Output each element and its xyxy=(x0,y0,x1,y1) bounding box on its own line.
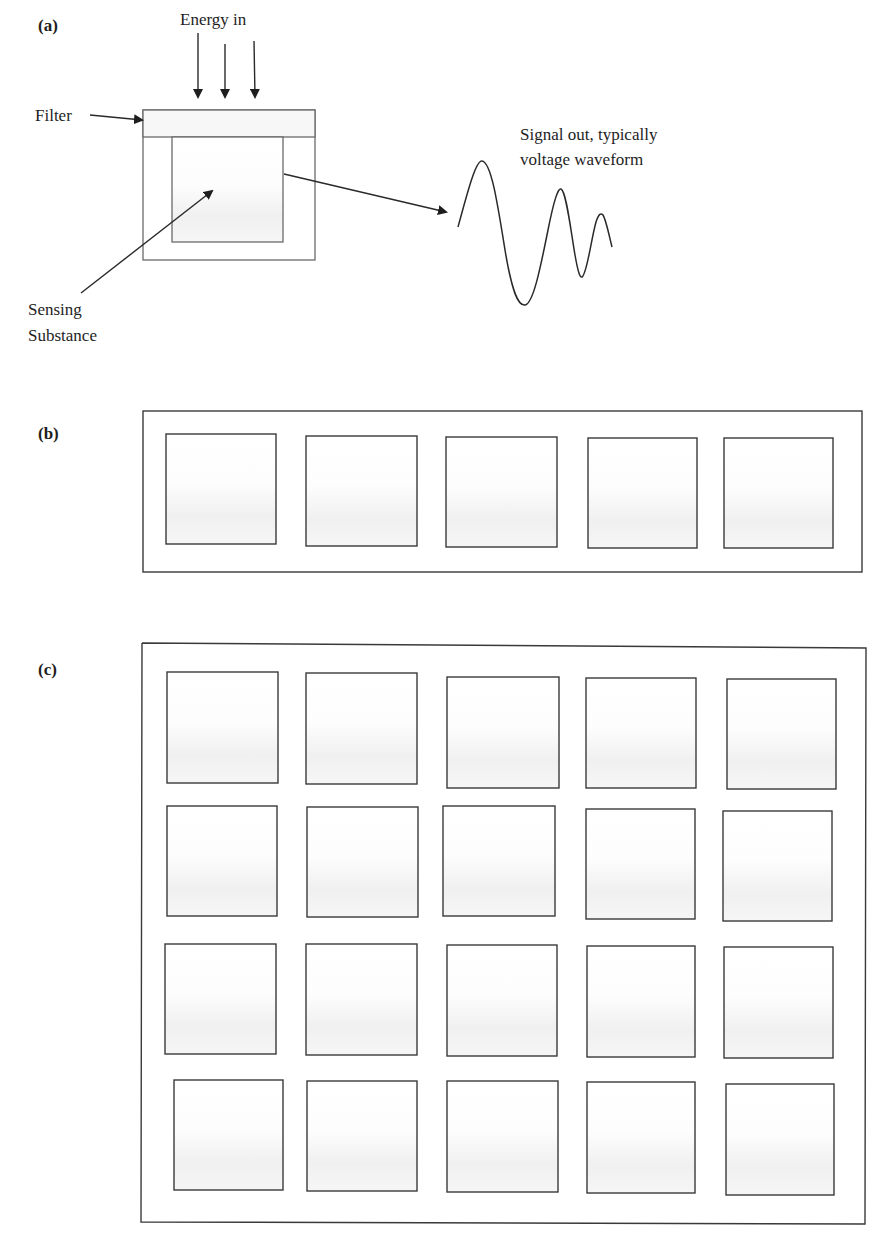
sensor-diagram xyxy=(81,33,612,305)
sensor-element xyxy=(447,677,559,788)
sensor-element xyxy=(306,673,417,784)
sensing-substance xyxy=(172,137,283,242)
sensor-element xyxy=(727,679,836,789)
sensor-element xyxy=(586,809,695,919)
sensor-element xyxy=(726,1084,834,1195)
sensor-element xyxy=(165,944,276,1054)
sensor-element xyxy=(446,437,557,547)
energy-arrows xyxy=(198,33,255,97)
sensor-element xyxy=(443,806,555,916)
sensor-element xyxy=(587,1082,695,1193)
energy-arrow-icon xyxy=(254,41,255,97)
sensor-element xyxy=(724,947,833,1058)
signal-out-arrow-icon xyxy=(284,174,446,212)
sensor-element xyxy=(723,811,832,921)
figure-canvas xyxy=(0,0,890,1259)
sensor-element xyxy=(307,1081,417,1191)
sensor-element xyxy=(167,806,277,916)
2d-sensor-array xyxy=(141,643,866,1224)
sensor-element xyxy=(724,438,833,548)
sensor-element xyxy=(166,434,276,544)
voltage-waveform xyxy=(458,161,612,305)
sensor-element xyxy=(447,945,557,1056)
sensor-element xyxy=(447,1081,558,1192)
sensor-element xyxy=(174,1080,283,1190)
sensor-element xyxy=(587,946,695,1057)
sensor-element xyxy=(306,944,417,1055)
filter-layer xyxy=(143,110,315,137)
linear-sensor-array xyxy=(143,411,862,572)
sensor-element xyxy=(588,438,697,548)
sensor-element xyxy=(306,436,417,546)
sensor-element xyxy=(586,678,696,788)
filter-pointer-arrow-icon xyxy=(90,115,142,120)
sensor-element xyxy=(167,672,278,783)
sensor-element xyxy=(307,807,418,917)
